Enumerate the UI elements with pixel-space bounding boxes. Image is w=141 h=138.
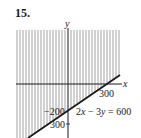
y-lower-tick-label: 300 bbox=[50, 119, 65, 130]
inequality-graph: y x 300 −200 300 2x − 3y = 600 bbox=[0, 0, 141, 138]
y-intercept-label: −200 bbox=[44, 106, 65, 117]
x-intercept-label: 300 bbox=[99, 88, 114, 99]
equation-label: 2x − 3y = 600 bbox=[76, 106, 131, 117]
x-axis-label: x bbox=[122, 78, 128, 89]
y-axis-label: y bbox=[64, 18, 70, 29]
